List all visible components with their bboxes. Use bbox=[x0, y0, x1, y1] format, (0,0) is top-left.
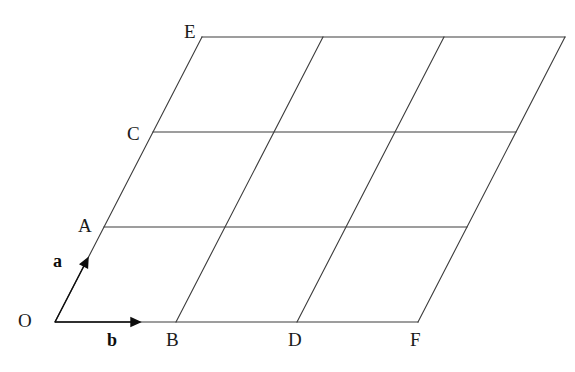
vector-label-a: a bbox=[53, 252, 62, 270]
vertex-label-o: O bbox=[18, 311, 32, 330]
lattice-line-a-2 bbox=[297, 37, 444, 322]
basis-vector-arrows bbox=[55, 258, 140, 326]
vertex-label-c: C bbox=[127, 124, 140, 143]
vector-a-arrow-head bbox=[80, 258, 88, 268]
vertex-label-a: A bbox=[78, 216, 92, 235]
vector-a-arrow-shaft bbox=[55, 266, 84, 322]
grid-lines-along-b bbox=[55, 37, 565, 322]
lattice-line-a-1 bbox=[176, 37, 323, 322]
vertex-label-e: E bbox=[184, 22, 196, 41]
vector-b-arrow-head bbox=[131, 318, 140, 326]
lattice-svg bbox=[0, 0, 575, 372]
lattice-line-a-3 bbox=[418, 37, 565, 322]
vertex-label-f: F bbox=[410, 330, 421, 349]
lattice-figure: OACEBDF ab bbox=[0, 0, 575, 372]
vector-label-b: b bbox=[107, 331, 117, 349]
vertex-label-b: B bbox=[166, 330, 179, 349]
vertex-label-d: D bbox=[288, 330, 302, 349]
grid-lines-along-a bbox=[55, 37, 565, 322]
